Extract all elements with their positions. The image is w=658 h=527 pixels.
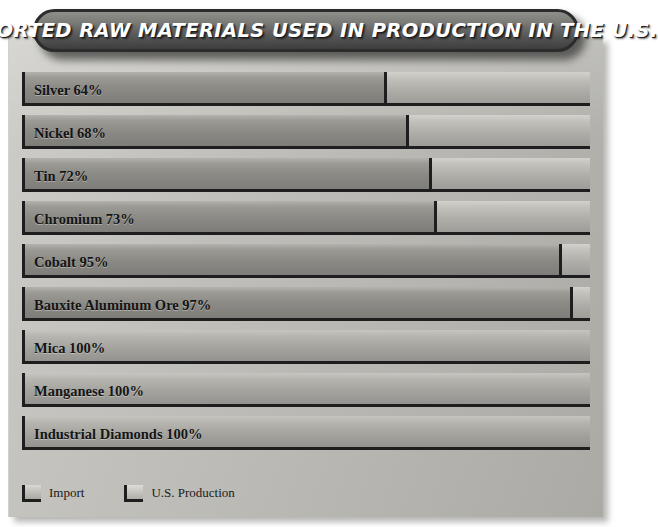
bar-segment-us-production [387, 72, 590, 103]
bar-row: Manganese 100% [22, 373, 590, 409]
bar-segment-import [25, 72, 387, 103]
bar-segment-import [25, 158, 432, 189]
bar-segment-us-production [573, 287, 590, 318]
bar-segment-us-production [409, 115, 590, 146]
chart-legend: ImportU.S. Production [22, 480, 422, 506]
bar-segment-import [25, 330, 590, 361]
bar-segment-import [25, 373, 590, 404]
bar-track [22, 416, 590, 450]
bar-chart: Silver 64%Nickel 68%Tin 72%Chromium 73%C… [22, 72, 590, 470]
bar-track [22, 373, 590, 407]
bar-row: Cobalt 95% [22, 244, 590, 280]
bar-segment-us-production [437, 201, 590, 232]
legend-label: Import [49, 485, 84, 501]
bar-row: Chromium 73% [22, 201, 590, 237]
import-swatch [22, 485, 41, 502]
bar-segment-import [25, 416, 590, 447]
bar-row: Silver 64% [22, 72, 590, 108]
bar-segment-import [25, 201, 437, 232]
legend-item: U.S. Production [124, 485, 234, 502]
bar-segment-import [25, 287, 573, 318]
bar-track [22, 158, 590, 192]
title-bar: IMPORTED RAW MATERIALS USED IN PRODUCTIO… [33, 9, 579, 52]
bar-row: Nickel 68% [22, 115, 590, 151]
legend-item: Import [22, 485, 84, 502]
bar-segment-import [25, 244, 562, 275]
bar-row: Bauxite Aluminum Ore 97% [22, 287, 590, 323]
bar-row: Tin 72% [22, 158, 590, 194]
bar-segment-import [25, 115, 409, 146]
bar-row: Industrial Diamonds 100% [22, 416, 590, 452]
bar-track [22, 201, 590, 235]
legend-label: U.S. Production [151, 485, 234, 501]
bar-track [22, 244, 590, 278]
bar-segment-us-production [562, 244, 590, 275]
bar-track [22, 287, 590, 321]
bar-segment-us-production [432, 158, 590, 189]
page-title: IMPORTED RAW MATERIALS USED IN PRODUCTIO… [0, 19, 658, 42]
us-production-swatch [124, 485, 143, 502]
bar-row: Mica 100% [22, 330, 590, 366]
bar-track [22, 72, 590, 106]
bar-track [22, 330, 590, 364]
bar-track [22, 115, 590, 149]
